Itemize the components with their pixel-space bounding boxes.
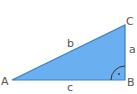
vertex-label-b: B [127, 76, 135, 89]
vertex-label-c: C [126, 15, 134, 28]
right-angle-dot [118, 73, 120, 75]
side-label-c: c [67, 81, 73, 94]
side-label-b: b [67, 37, 74, 50]
triangle-abc [12, 25, 125, 80]
triangle-diagram: A B C a b c [0, 0, 137, 94]
vertex-label-a: A [1, 75, 9, 88]
side-label-a: a [129, 43, 136, 56]
